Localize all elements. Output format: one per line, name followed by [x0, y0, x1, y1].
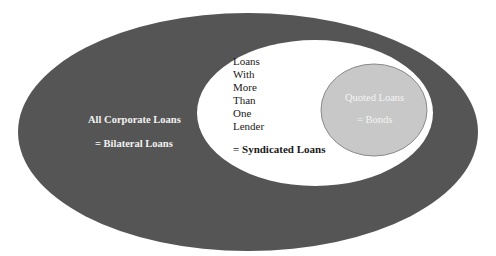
inner-set-title: Quoted Loans	[345, 93, 404, 104]
middle-set-line: More	[233, 82, 257, 93]
middle-set-equivalent: = Syndicated Loans	[233, 144, 325, 155]
outer-set-equivalent: = Bilateral Loans	[95, 139, 173, 150]
outer-set-title: All Corporate Loans	[88, 115, 181, 126]
middle-set-line: Lender	[233, 121, 264, 132]
middle-set-line: With	[233, 69, 255, 80]
middle-set-line: Loans	[233, 56, 260, 67]
middle-set-line: One	[233, 108, 251, 119]
middle-set-line: Than	[233, 95, 256, 106]
bonds-set	[321, 64, 427, 156]
inner-set-equivalent: = Bonds	[357, 115, 392, 126]
